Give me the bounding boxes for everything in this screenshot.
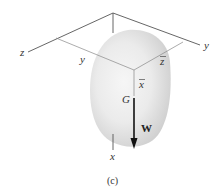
figure-caption: (c) — [107, 175, 118, 187]
z-axis-label: z — [19, 46, 25, 58]
figure-canvas: z y y z x G W x (c) — [0, 0, 219, 195]
x-axis-label: x — [109, 150, 115, 162]
y-dimension-label: y — [79, 53, 85, 65]
y-axis-label: y — [203, 39, 209, 51]
weight-label: W — [141, 122, 152, 134]
z-axis-line — [28, 13, 113, 52]
center-of-gravity-label: G — [122, 93, 130, 105]
body-diagram: z y y z x G W x (c) — [0, 0, 219, 195]
x-bar-label: x — [138, 78, 144, 90]
rigid-body-shape — [90, 30, 171, 147]
